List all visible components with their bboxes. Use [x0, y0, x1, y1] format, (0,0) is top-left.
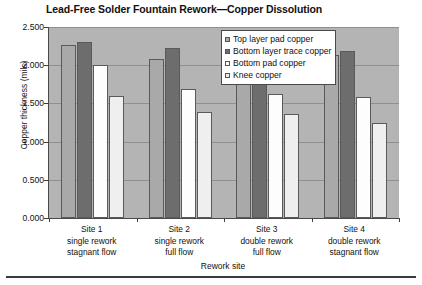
- bar: [61, 45, 76, 218]
- bar: [109, 96, 124, 218]
- legend-item: Knee copper: [225, 70, 331, 81]
- legend-swatch-icon: [225, 37, 230, 42]
- legend-item: Bottom layer trace copper: [225, 46, 331, 57]
- x-category-label-line: double rework: [311, 236, 399, 248]
- x-axis-title: Rework site: [48, 261, 398, 271]
- legend-item: Bottom pad copper: [225, 58, 331, 69]
- y-tick-label: 2.500: [2, 22, 44, 32]
- x-category-label: Site 2single reworkfull flow: [136, 224, 224, 259]
- x-category-label: Site 1single reworkstagnant flow: [48, 224, 136, 259]
- x-tick-mark: [49, 218, 50, 222]
- x-category-label-line: single rework: [136, 236, 224, 248]
- bar-group: [137, 27, 225, 218]
- legend-item: Top layer pad copper: [225, 34, 331, 45]
- chart-legend: Top layer pad copperBottom layer trace c…: [221, 30, 336, 85]
- bar: [181, 89, 196, 218]
- bar: [77, 42, 92, 218]
- bar: [356, 97, 371, 218]
- y-axis-ticks: 2.5002.0001.5001.0000.5000.000: [0, 0, 44, 285]
- page-rule: [6, 276, 416, 278]
- x-category-label-line: stagnant flow: [48, 247, 136, 259]
- y-tick-label: 0.000: [2, 213, 44, 223]
- x-axis-labels: Site 1single reworkstagnant flowSite 2si…: [48, 224, 398, 259]
- chart-figure: Lead-Free Solder Fountain Rework—Copper …: [0, 0, 422, 285]
- x-tick-mark: [224, 218, 225, 222]
- bar: [372, 123, 387, 218]
- y-tick-label: 0.500: [2, 175, 44, 185]
- legend-label: Bottom layer trace copper: [233, 46, 331, 57]
- y-tick-label: 1.500: [2, 98, 44, 108]
- x-category-label-line: full flow: [223, 247, 311, 259]
- x-category-label-line: Site 2: [136, 224, 224, 236]
- legend-label: Knee copper: [233, 70, 282, 81]
- x-tick-mark: [137, 218, 138, 222]
- x-category-label-line: Site 1: [48, 224, 136, 236]
- legend-label: Top layer pad copper: [233, 34, 313, 45]
- bar-group: [49, 27, 137, 218]
- bar: [340, 51, 355, 218]
- x-category-label-line: Site 3: [223, 224, 311, 236]
- x-category-label-line: Site 4: [311, 224, 399, 236]
- x-category-label-line: single rework: [48, 236, 136, 248]
- legend-swatch-icon: [225, 73, 230, 78]
- x-category-label-line: double rework: [223, 236, 311, 248]
- legend-label: Bottom pad copper: [233, 58, 306, 69]
- x-tick-mark: [312, 218, 313, 222]
- x-category-label-line: stagnant flow: [311, 247, 399, 259]
- y-tick-label: 1.000: [2, 137, 44, 147]
- bar: [149, 59, 164, 218]
- chart-title: Lead-Free Solder Fountain Rework—Copper …: [46, 3, 376, 15]
- x-category-label: Site 4double reworkstagnant flow: [311, 224, 399, 259]
- x-category-label: Site 3double reworkfull flow: [223, 224, 311, 259]
- legend-swatch-icon: [225, 49, 230, 54]
- bar: [165, 48, 180, 218]
- x-category-label-line: full flow: [136, 247, 224, 259]
- legend-swatch-icon: [225, 61, 230, 66]
- bar: [268, 94, 283, 218]
- bar: [197, 112, 212, 218]
- bar: [93, 65, 108, 218]
- x-tick-mark: [399, 218, 400, 222]
- y-tick-label: 2.000: [2, 60, 44, 70]
- bar: [284, 114, 299, 218]
